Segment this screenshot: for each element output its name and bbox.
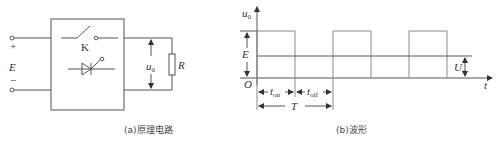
pulse-2 — [333, 31, 371, 78]
output-voltage-label: u0 — [146, 60, 156, 74]
amplitude-label: E — [241, 48, 249, 60]
switch-k — [61, 26, 118, 40]
circuit-caption: (a)原理电路 — [124, 124, 173, 135]
figure: + E − K u0 R (a)原理电路 u0 E O Uo t ton tof… — [0, 0, 500, 142]
plus-label: + — [10, 40, 16, 52]
resistor-label: R — [177, 59, 185, 71]
pulse-3 — [409, 31, 447, 78]
x-axis-label: t — [484, 79, 488, 91]
waveform-caption: (b)波形 — [336, 124, 367, 135]
source-label: E — [8, 61, 16, 73]
t-off-label: toff — [307, 85, 319, 99]
origin-label: O — [244, 78, 252, 90]
t-on-label: ton — [270, 85, 281, 99]
average-voltage-label: Uo — [454, 61, 466, 75]
resistor-icon — [169, 54, 175, 75]
minus-label: − — [10, 74, 16, 86]
chopper-box — [51, 19, 124, 110]
y-axis-label: u0 — [242, 7, 252, 21]
thyristor-icon — [68, 57, 115, 75]
period-label: T — [291, 100, 298, 112]
negative-terminal — [10, 88, 14, 92]
pulse-1 — [257, 31, 295, 78]
switch-label: K — [81, 41, 89, 53]
